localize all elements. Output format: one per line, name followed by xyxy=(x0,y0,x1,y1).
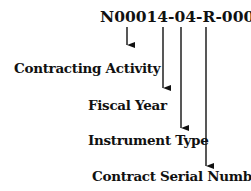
label-contracting-activity: Contracting Activity xyxy=(14,60,160,76)
label-contract-serial-number: Contract Serial Number xyxy=(92,168,251,184)
label-instrument-type: Instrument Type xyxy=(88,132,208,148)
arrows xyxy=(0,0,251,191)
label-fiscal-year: Fiscal Year xyxy=(88,97,167,113)
